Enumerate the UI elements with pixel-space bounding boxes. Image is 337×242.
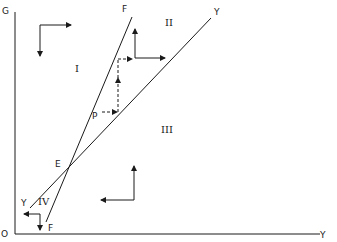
region-iii-arrows bbox=[101, 166, 134, 200]
x-axis-label: Y bbox=[319, 230, 326, 240]
point-e-label: E bbox=[55, 159, 61, 169]
axes bbox=[15, 12, 320, 234]
region-i-arrows bbox=[40, 25, 71, 56]
yy-line bbox=[30, 18, 211, 208]
origin-label: O bbox=[1, 229, 8, 239]
ff-label-top: F bbox=[122, 4, 127, 14]
phase-diagram: G Y O F F Y Y E P I II III IV bbox=[0, 0, 337, 242]
y-axis-label: G bbox=[2, 6, 9, 16]
region-i-label: I bbox=[75, 63, 79, 74]
region-ii-arrows bbox=[135, 29, 165, 58]
region-iii-label: III bbox=[161, 124, 173, 135]
region-iv-arrows bbox=[24, 214, 40, 230]
region-iv-label: IV bbox=[38, 196, 50, 207]
yy-label-bottom: Y bbox=[20, 198, 27, 208]
point-p-label: P bbox=[92, 111, 98, 121]
yy-label-top: Y bbox=[213, 7, 220, 17]
p-trajectory bbox=[102, 59, 132, 112]
region-ii-label: II bbox=[165, 17, 173, 28]
ff-line bbox=[46, 17, 132, 222]
ff-label-bottom: F bbox=[48, 223, 53, 233]
